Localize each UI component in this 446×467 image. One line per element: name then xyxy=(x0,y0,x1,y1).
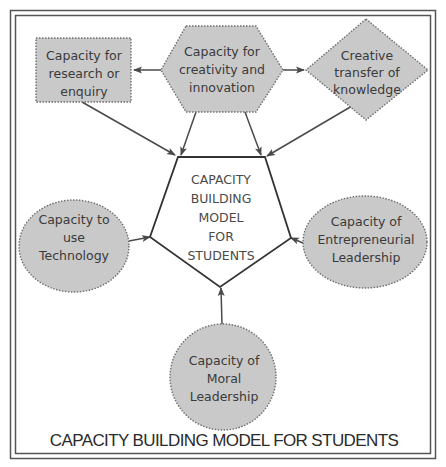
node-entrepreneurial-line-3: Leadership xyxy=(332,250,401,265)
arrow-creativity-right-to-center xyxy=(245,112,261,155)
center-line-3: MODEL xyxy=(198,210,243,225)
node-creativity: Capacity for creativity and innovation xyxy=(161,26,283,112)
center-line-5: STUDENTS xyxy=(187,248,254,263)
node-creativity-line-3: innovation xyxy=(189,80,255,95)
center-line-2: BUILDING xyxy=(191,191,252,206)
arrow-knowledge-to-center xyxy=(267,106,352,156)
node-entrepreneurial-line-2: Entrepreneurial xyxy=(317,232,414,247)
arrow-technology-to-center xyxy=(129,237,150,241)
center-model: CAPACITY BUILDING MODEL FOR STUDENTS xyxy=(150,157,291,287)
node-moral-line-3: Leadership xyxy=(190,389,259,404)
node-entrepreneurial: Capacity of Entrepreneurial Leadership xyxy=(303,196,427,288)
node-technology-line-2: use xyxy=(63,230,85,245)
node-technology-line-3: Technology xyxy=(38,248,110,263)
capacity-building-diagram: Capacity for research or enquiry Capacit… xyxy=(0,0,446,467)
diagram-caption: CAPACITY BUILDING MODEL FOR STUDENTS xyxy=(50,431,399,450)
node-research-line-3: enquiry xyxy=(60,84,108,99)
node-knowledge-line-1: Creative xyxy=(341,48,394,63)
node-research: Capacity for research or enquiry xyxy=(36,38,131,102)
node-moral: Capacity of Moral Leadership xyxy=(170,324,276,430)
node-creativity-line-1: Capacity for xyxy=(184,44,261,59)
node-moral-line-2: Moral xyxy=(207,371,242,386)
arrow-moral-to-center xyxy=(221,288,222,325)
node-knowledge-line-2: transfer of xyxy=(334,65,400,80)
node-research-line-1: Capacity for xyxy=(46,48,123,63)
arrow-research-to-center xyxy=(82,102,175,155)
node-technology-line-1: Capacity to xyxy=(38,212,109,227)
arrow-creativity-left-to-center xyxy=(181,112,196,155)
center-line-4: FOR xyxy=(208,229,234,244)
node-research-line-2: research or xyxy=(49,66,121,81)
node-creativity-line-2: creativity and xyxy=(179,62,265,77)
node-knowledge: Creative transfer of knowledge xyxy=(306,19,428,120)
node-entrepreneurial-line-1: Capacity of xyxy=(331,214,402,229)
node-knowledge-line-3: knowledge xyxy=(333,82,401,97)
node-technology: Capacity to use Technology xyxy=(19,200,129,292)
arrow-entrepreneurial-to-center xyxy=(291,238,303,243)
center-line-1: CAPACITY xyxy=(191,172,251,187)
node-moral-line-1: Capacity of xyxy=(189,353,260,368)
